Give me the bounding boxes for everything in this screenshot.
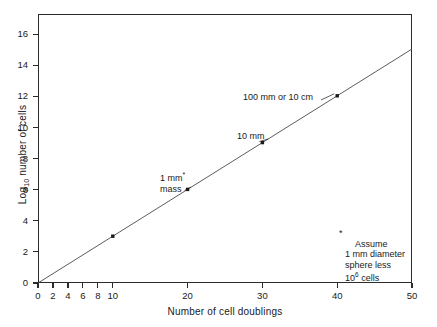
y-tick-6 [33, 189, 38, 190]
chart-figure: 024681020304050 Number of cell doublings… [0, 0, 437, 327]
x-tick-label-30: 30 [257, 291, 268, 301]
x-tick-label-2: 2 [50, 291, 55, 301]
x-tick-2 [52, 283, 53, 288]
footnote-line-3: sphere less [345, 260, 391, 270]
annotation-10mm: 10 mm [237, 131, 265, 142]
annotation-1mm-asterisk: * [183, 171, 186, 178]
y-tick-14 [33, 65, 38, 66]
y-tick-8 [33, 158, 38, 159]
y-tick-label-4: 4 [23, 216, 28, 226]
y-tick-label-10: 10 [17, 123, 28, 133]
x-tick-label-6: 6 [80, 291, 85, 301]
y-tick-label-6: 6 [23, 185, 28, 195]
y-tick-4 [33, 220, 38, 221]
y-tick-16 [33, 34, 38, 35]
y-tick-label-16: 16 [17, 29, 28, 39]
y-tick-0 [33, 282, 38, 283]
x-tick-label-20: 20 [182, 291, 193, 301]
y-tick-10 [33, 127, 38, 128]
x-tick-label-8: 8 [95, 291, 100, 301]
footnote-line-4-base: 10 [345, 273, 355, 283]
x-tick-40 [337, 283, 338, 288]
x-tick-0 [37, 283, 38, 288]
x-tick-30 [262, 283, 263, 288]
annotation-100mm: 100 mm or 10 cm [243, 92, 313, 103]
footnote-line-4-rest: cells [359, 273, 380, 283]
footnote-asterisk: * [339, 228, 343, 239]
y-axis-title-rest: number of cells [17, 105, 28, 179]
x-tick-10 [112, 283, 113, 288]
y-tick-12 [33, 96, 38, 97]
y-tick-2 [33, 251, 38, 252]
x-tick-4 [67, 283, 68, 288]
y-tick-label-12: 12 [17, 92, 28, 102]
x-tick-20 [187, 283, 188, 288]
x-tick-label-0: 0 [35, 291, 40, 301]
x-tick-label-10: 10 [108, 291, 119, 301]
x-tick-6 [82, 283, 83, 288]
y-tick-label-2: 2 [23, 247, 28, 257]
y-tick-label-8: 8 [23, 154, 28, 164]
x-tick-8 [97, 283, 98, 288]
x-tick-50 [411, 283, 412, 288]
x-tick-label-50: 50 [407, 291, 418, 301]
annotation-1mm-line2: mass [160, 184, 182, 194]
annotation-1mm-line1: 1 mm [160, 173, 183, 183]
footnote-block: *Assume1 mm diametersphere less106 cells [345, 228, 405, 294]
annotation-1mm-mass: 1 mm*mass [160, 170, 185, 194]
x-tick-label-40: 40 [332, 291, 343, 301]
x-tick-label-4: 4 [65, 291, 70, 301]
footnote-line-2: 1 mm diameter [345, 249, 405, 259]
y-tick-label-0: 0 [23, 278, 28, 288]
footnote-line-1: Assume [355, 239, 388, 249]
x-axis-title: Number of cell doublings [38, 306, 412, 317]
y-tick-label-14: 14 [17, 61, 28, 71]
